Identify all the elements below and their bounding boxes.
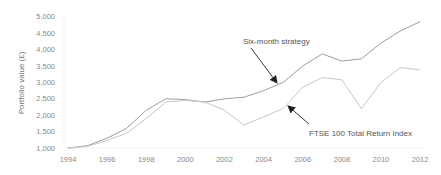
line-chart: 1,0001,5002,0002,5003,0003,5004,0004,500… — [0, 0, 441, 175]
x-tick-label: 2008 — [333, 155, 350, 164]
chart-canvas: 1,0001,5002,0002,5003,0003,5004,0004,500… — [0, 0, 441, 175]
x-tick-label: 2004 — [255, 155, 272, 164]
x-tick-label: 1994 — [60, 155, 77, 164]
x-tick-label: 2006 — [294, 155, 311, 164]
y-tick-label: 4,000 — [36, 45, 55, 54]
arrow-icon — [251, 48, 277, 83]
x-axis: 1994199619982000200220042006200820102012 — [60, 155, 429, 164]
y-axis-label: Portfolio value (£) — [17, 51, 26, 114]
y-tick-label: 3,000 — [36, 78, 55, 87]
y-tick-label: 5,000 — [36, 12, 55, 21]
x-tick-label: 2002 — [216, 155, 233, 164]
y-tick-label: 1,500 — [36, 127, 55, 136]
y-tick-label: 2,500 — [36, 94, 55, 103]
x-tick-label: 2010 — [373, 155, 390, 164]
arrow-icon — [288, 106, 309, 124]
annotation-six-month: Six-month strategy — [243, 37, 310, 46]
y-tick-label: 2,000 — [36, 111, 55, 120]
x-tick-label: 2012 — [412, 155, 429, 164]
x-tick-label: 1996 — [99, 155, 116, 164]
y-axis: 1,0001,5002,0002,5003,0003,5004,0004,500… — [36, 12, 55, 152]
x-tick-label: 1998 — [138, 155, 155, 164]
y-tick-label: 3,500 — [36, 62, 55, 71]
annotation-ftse: FTSE 100 Total Return Index — [309, 129, 412, 138]
y-tick-label: 4,500 — [36, 29, 55, 38]
x-tick-label: 2000 — [177, 155, 194, 164]
y-tick-label: 1,000 — [36, 144, 55, 153]
